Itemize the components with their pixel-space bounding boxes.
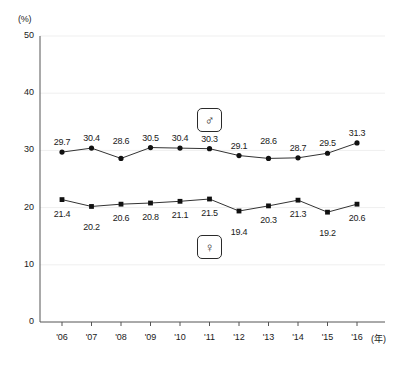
data-point-label: 21.1 — [164, 210, 196, 220]
x-tick-label: '08 — [105, 332, 137, 342]
x-tick-label: '12 — [223, 332, 255, 342]
y-tick-label: 0 — [8, 316, 34, 326]
series-lines — [62, 143, 357, 212]
x-tick-label: '15 — [312, 332, 344, 342]
y-axis-unit-label: (%) — [18, 14, 31, 24]
y-tick-label: 50 — [8, 30, 34, 40]
data-point-label: 30.3 — [194, 134, 226, 144]
data-point-label: 21.4 — [46, 209, 78, 219]
data-point-label: 20.3 — [253, 215, 285, 225]
data-point-label: 20.2 — [76, 222, 108, 232]
data-point-label: 29.5 — [312, 138, 344, 148]
data-point-label: 30.4 — [76, 133, 108, 143]
x-axis-unit-label: (年) — [371, 332, 386, 345]
data-point-label: 31.3 — [341, 128, 373, 138]
x-tick-label: '09 — [135, 332, 167, 342]
x-tick-label: '10 — [164, 332, 196, 342]
y-tick-label: 40 — [8, 87, 34, 97]
data-point-label: 29.1 — [223, 141, 255, 151]
axes — [40, 36, 385, 322]
x-tick-label: '13 — [253, 332, 285, 342]
data-point-label: 28.6 — [105, 136, 137, 146]
data-point-label: 20.8 — [135, 212, 167, 222]
data-point-label: 21.3 — [282, 209, 314, 219]
data-point-label: 20.6 — [105, 213, 137, 223]
male-symbol-icon: ♂ — [205, 114, 215, 127]
x-tick-label: '06 — [46, 332, 78, 342]
x-tick-label: '14 — [282, 332, 314, 342]
series-markers — [59, 140, 359, 214]
x-tick-label: '16 — [341, 332, 373, 342]
data-point-label: 21.5 — [194, 208, 226, 218]
data-point-label: 19.4 — [223, 227, 255, 237]
chart-canvas — [0, 0, 397, 369]
data-point-label: 28.6 — [253, 136, 285, 146]
y-tick-label: 10 — [8, 259, 34, 269]
data-point-label: 30.4 — [164, 133, 196, 143]
y-tick-label: 30 — [8, 144, 34, 154]
y-tick-label: 20 — [8, 202, 34, 212]
data-point-label: 20.6 — [341, 213, 373, 223]
data-point-label: 28.7 — [282, 143, 314, 153]
data-point-label: 29.7 — [46, 137, 78, 147]
data-point-label: 19.2 — [312, 228, 344, 238]
data-point-label: 30.5 — [135, 133, 167, 143]
x-tick-marks — [62, 322, 357, 326]
x-tick-label: '07 — [76, 332, 108, 342]
legend-female: ♀ — [197, 235, 222, 259]
x-tick-label: '11 — [194, 332, 226, 342]
legend-male: ♂ — [197, 108, 222, 132]
line-chart: (%) 01020304050 '06'07'08'09'10'11'12'13… — [0, 0, 397, 369]
female-symbol-icon: ♀ — [205, 241, 215, 254]
